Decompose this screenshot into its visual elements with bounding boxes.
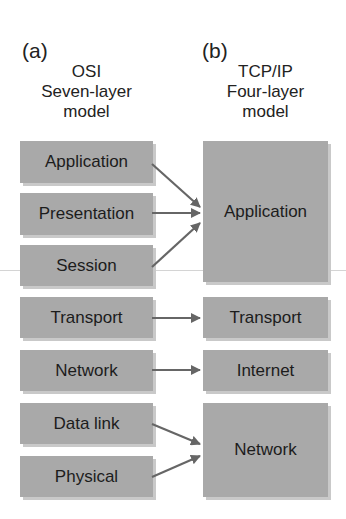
mapping-arrows bbox=[0, 0, 346, 519]
arrow-application-to-application bbox=[152, 164, 200, 207]
arrow-physical-to-network bbox=[152, 456, 200, 477]
arrow-datalink-to-network bbox=[152, 424, 200, 444]
arrow-session-to-application bbox=[152, 223, 200, 267]
